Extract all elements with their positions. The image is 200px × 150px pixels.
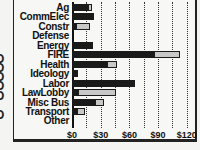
bar-segment-dark (72, 99, 96, 106)
gridline (172, 2, 173, 128)
bar-segment-light (93, 13, 94, 20)
bar-segment-light (96, 99, 104, 106)
bar-segment-dark (72, 51, 155, 58)
bar (72, 4, 92, 11)
bar-segment-light (89, 4, 92, 11)
bar-segment-dark (72, 13, 93, 20)
edge-glyph: O (0, 110, 4, 120)
bar (72, 99, 104, 106)
plot-area (72, 2, 197, 128)
bar (72, 89, 116, 96)
edge-glyph: O (0, 91, 4, 101)
bar-segment-dark (72, 70, 78, 77)
bar (72, 42, 93, 49)
gridline (144, 2, 145, 128)
bar (72, 23, 90, 30)
gridline (158, 2, 159, 128)
bar-segment-light (108, 61, 117, 68)
x-tick-label: $30 (93, 130, 108, 140)
x-tick-label: $60 (122, 130, 137, 140)
bar (72, 61, 117, 68)
bar-segment-light (78, 108, 86, 115)
gridline (129, 2, 130, 128)
x-tick-label: $90 (151, 130, 166, 140)
bar (72, 13, 94, 20)
clipped-edge-text: O O O O O O (0, 0, 7, 150)
bar-segment-dark (72, 89, 79, 96)
bar (72, 80, 135, 87)
bar-segment-dark (72, 61, 108, 68)
x-tick-label: $120 (177, 130, 197, 140)
bar (72, 108, 85, 115)
x-tick-label: $0 (67, 130, 77, 140)
bar-segment-light (77, 23, 90, 30)
bar-segment-dark (72, 80, 135, 87)
bar (72, 51, 180, 58)
bar (72, 70, 78, 77)
gridline (187, 2, 188, 128)
bar-segment-light (79, 89, 116, 96)
category-label: Other (44, 116, 69, 126)
bar-segment-dark (72, 42, 93, 49)
bar-segment-light (155, 51, 180, 58)
bar-segment-dark (72, 4, 89, 11)
